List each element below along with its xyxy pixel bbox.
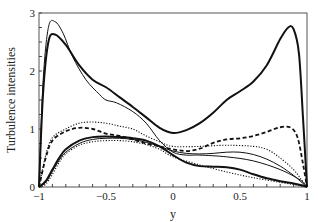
y-axis-label: Turbulence intensities <box>4 47 18 153</box>
series-line <box>39 20 307 187</box>
series-lines <box>39 20 307 187</box>
x-tick-label: 0.5 <box>233 190 247 202</box>
x-tick-label: −0.5 <box>96 190 116 202</box>
x-tick-label: 1 <box>304 190 310 202</box>
series-line <box>39 26 307 187</box>
x-axis-label: y <box>170 207 176 221</box>
y-tick-label: 1 <box>30 123 36 135</box>
line-chart: −1−0.500.510123 y Turbulence intensities <box>0 0 318 222</box>
y-tick-label: 2 <box>30 65 36 77</box>
y-tick-label: 0 <box>30 181 36 193</box>
y-tick-label: 3 <box>30 7 36 19</box>
plot-frame <box>39 13 307 187</box>
plot-axes: −1−0.500.510123 <box>30 7 310 202</box>
series-line <box>39 137 307 187</box>
series-line <box>39 140 307 187</box>
x-tick-label: 0 <box>170 190 176 202</box>
